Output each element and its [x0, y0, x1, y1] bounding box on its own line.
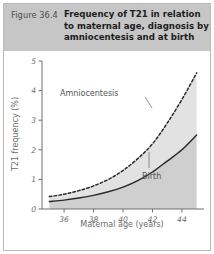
y-tick-label: 2: [31, 146, 36, 155]
y-tick-label: 1: [31, 175, 36, 184]
birth-label: Birth: [142, 172, 161, 181]
figure-title-line-3: amniocentesis and at birth: [64, 32, 209, 44]
x-tick-label: 36: [59, 215, 69, 224]
figure-caption-band: Figure 36.4 Frequency of T21 in relation…: [4, 4, 210, 51]
x-tick-label: 44: [177, 215, 187, 224]
figure-container: Figure 36.4 Frequency of T21 in relation…: [3, 3, 211, 251]
figure-title-line-2: to maternal age, diagnosis by: [64, 21, 209, 33]
chart-plot-region: 012345 3638404244 Amniocentesis Birth Ma…: [4, 51, 210, 250]
t21-frequency-chart: 012345 3638404244 Amniocentesis Birth Ma…: [4, 51, 211, 251]
amniocentesis-leader-line: [145, 97, 152, 108]
figure-title: Frequency of T21 in relation to maternal…: [64, 9, 209, 44]
y-axis-title: T21 frequency (%): [11, 97, 20, 172]
y-tick-label: 5: [31, 57, 36, 66]
figure-number-label: Figure 36.4: [11, 9, 58, 20]
figure-title-line-1: Frequency of T21 in relation: [64, 9, 209, 21]
y-tick-label: 4: [31, 86, 36, 95]
amniocentesis-label: Amniocentesis: [60, 89, 118, 98]
x-axis-title: Maternal age (years): [80, 220, 163, 229]
y-tick-label: 0: [31, 205, 36, 214]
y-axis-ticks: 012345: [31, 57, 42, 214]
y-tick-label: 3: [31, 116, 36, 125]
